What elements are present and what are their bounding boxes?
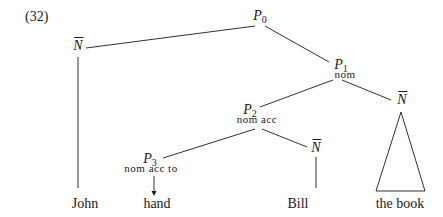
- node-p0-label: P: [253, 8, 262, 23]
- node-n-bill: N: [311, 139, 320, 155]
- tree-edges: [0, 0, 443, 217]
- node-n-john: N: [73, 37, 82, 53]
- node-n-book: N: [397, 91, 406, 107]
- edge-p1-nbook: [342, 80, 391, 100]
- edge-p0-p1: [265, 26, 329, 62]
- node-p1-features: nom: [334, 69, 355, 80]
- leaf-john: John: [72, 197, 98, 211]
- edge-p0-njohn: [86, 26, 255, 48]
- triangle-the-book: [376, 112, 425, 191]
- leaf-hand: hand: [143, 197, 170, 211]
- bar-icon: [75, 37, 84, 38]
- leaf-bill: Bill: [287, 197, 308, 211]
- node-n-john-label: N: [73, 38, 82, 53]
- bar-icon: [399, 91, 408, 92]
- node-n-book-label: N: [397, 92, 406, 107]
- node-p3-features: nom acc to: [124, 163, 177, 174]
- node-p0-subscript: 0: [262, 14, 267, 25]
- node-p2-features: nom acc: [237, 114, 277, 125]
- node-n-bill-label: N: [311, 140, 320, 155]
- example-number: (32): [25, 10, 48, 24]
- edge-p2-p3: [163, 129, 255, 158]
- node-p0: P0: [253, 9, 267, 25]
- leaf-the-book: the book: [376, 197, 425, 211]
- edge-p2-nbill: [262, 129, 307, 147]
- bar-icon: [313, 139, 322, 140]
- edge-p1-p2: [260, 80, 333, 107]
